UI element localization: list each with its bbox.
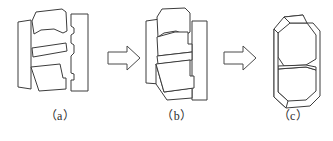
caption-b: （b） [142, 106, 212, 124]
stage-a-upper-block [32, 9, 67, 34]
stage-a-right-notched-bar [71, 14, 88, 91]
caption-c: （c） [258, 106, 328, 124]
arrow-a-to-b-icon [108, 46, 140, 70]
stage-c-group [274, 15, 320, 108]
stage-a-middle-strip [32, 43, 67, 57]
figure-container: （a） （b） （c） [0, 0, 333, 141]
stage-a-left-bar [18, 20, 31, 89]
arrow-b-to-c-icon [224, 46, 256, 70]
stage-c-body-lower [278, 67, 316, 101]
stage-b-group [146, 8, 207, 100]
stage-c-body-upper [278, 23, 316, 66]
stage-a-group [18, 9, 88, 91]
caption-row: （a） （b） （c） [0, 106, 333, 132]
stage-a-lower-wedge [31, 64, 66, 91]
caption-a: （a） [25, 106, 95, 124]
